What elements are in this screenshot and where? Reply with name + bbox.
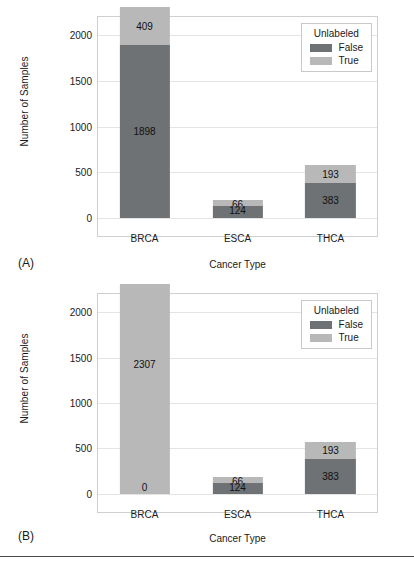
legend-item-true[interactable]: True <box>310 332 363 343</box>
panel-b-tag: (B) <box>18 529 34 543</box>
panel-b-xtick-thca: THCA <box>317 509 344 520</box>
panel-b-y-axis-label: Number of Samples <box>19 289 30 469</box>
bar-value-true: 193 <box>305 169 355 180</box>
legend-item-false[interactable]: False <box>310 42 363 53</box>
panel-b-ytick-1500: 1500 <box>70 352 92 363</box>
bar-group-esca[interactable]: 66 124 ESCA <box>212 477 262 494</box>
panel-a-x-axis-label: Cancer Type <box>97 259 378 270</box>
bar-value-false: 124 <box>212 482 262 493</box>
panel-b-legend: Unlabeled False True <box>301 300 372 349</box>
bar-segment-false[interactable]: 1898 <box>119 45 169 218</box>
legend-label-true: True <box>339 55 359 66</box>
bar-value-false: 383 <box>305 471 355 482</box>
bar-segment-false[interactable]: 383 <box>305 183 355 218</box>
legend-title: Unlabeled <box>310 305 363 316</box>
legend-title: Unlabeled <box>310 28 363 39</box>
bar-value-true: 193 <box>305 445 355 456</box>
panel-b-ytick-1000: 1000 <box>70 398 92 409</box>
legend-label-true: True <box>339 332 359 343</box>
panel-b-ytick-2000: 2000 <box>70 307 92 318</box>
legend-label-false: False <box>339 42 363 53</box>
bar-segment-true[interactable]: 2307 0 <box>119 284 169 494</box>
panel-a-ytick-0: 0 <box>86 212 92 223</box>
panel-b-xtick-brca: BRCA <box>131 509 159 520</box>
bar-group-brca[interactable]: 2307 0 BRCA <box>119 284 169 494</box>
panel-b-ytick-500: 500 <box>75 443 92 454</box>
bar-group-thca[interactable]: 193 383 THCA <box>305 442 355 494</box>
panel-a-legend: Unlabeled False True <box>301 23 372 72</box>
bar-group-thca[interactable]: 193 383 THCA <box>305 165 355 218</box>
bar-value-true: 409 <box>119 20 169 31</box>
panel-a: Number of Samples 2000 1500 1000 500 0 <box>0 0 414 283</box>
bar-group-brca[interactable]: 409 1898 BRCA <box>119 7 169 218</box>
panel-a-xtick-brca: BRCA <box>131 233 159 244</box>
bar-segment-true[interactable]: 409 <box>119 7 169 44</box>
figure-two-panel-stacked-bar-chart: Number of Samples 2000 1500 1000 500 0 <box>0 0 414 566</box>
bar-value-true: 2307 <box>119 358 169 369</box>
panel-a-y-axis-label: Number of Samples <box>19 12 30 192</box>
panel-a-xtick-esca: ESCA <box>224 233 251 244</box>
legend-swatch-true-icon <box>310 334 332 342</box>
panel-b-ytick-0: 0 <box>86 488 92 499</box>
bar-value-false: 1898 <box>119 126 169 137</box>
legend-item-true[interactable]: True <box>310 55 363 66</box>
bar-value-false: 124 <box>212 205 262 216</box>
panel-b: Number of Samples 2000 1500 1000 500 0 <box>0 277 414 547</box>
legend-swatch-false-icon <box>310 321 332 329</box>
legend-swatch-true-icon <box>310 57 332 65</box>
panel-a-ytick-1000: 1000 <box>70 121 92 132</box>
bar-segment-false[interactable]: 124 <box>212 206 262 217</box>
panel-a-plot-area: 2000 1500 1000 500 0 409 <box>97 16 378 237</box>
panel-a-ytick-1500: 1500 <box>70 75 92 86</box>
legend-item-false[interactable]: False <box>310 319 363 330</box>
panel-b-xtick-esca: ESCA <box>224 509 251 520</box>
bar-segment-true[interactable]: 193 <box>305 165 355 183</box>
bar-segment-false[interactable]: 124 <box>212 483 262 494</box>
panel-b-x-axis-label: Cancer Type <box>97 533 378 544</box>
bar-segment-false[interactable]: 383 <box>305 459 355 494</box>
bar-value-false: 383 <box>305 195 355 206</box>
panel-a-ytick-500: 500 <box>75 167 92 178</box>
bar-group-esca[interactable]: 66 124 ESCA <box>212 200 262 217</box>
panel-a-xtick-thca: THCA <box>317 233 344 244</box>
bar-segment-true[interactable]: 193 <box>305 442 355 460</box>
bar-value-false: 0 <box>119 482 169 493</box>
legend-label-false: False <box>339 319 363 330</box>
panel-b-plot-area: 2000 1500 1000 500 0 2307 0 <box>97 293 378 513</box>
footer-divider <box>0 556 414 557</box>
panel-a-ytick-2000: 2000 <box>70 30 92 41</box>
legend-swatch-false-icon <box>310 44 332 52</box>
panel-a-tag: (A) <box>18 256 34 270</box>
